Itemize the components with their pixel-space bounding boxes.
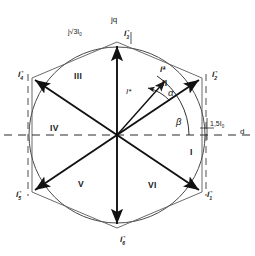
vector-label-I3-sub: 3 bbox=[126, 34, 129, 40]
vector-label-I1-sub: 1 bbox=[209, 195, 212, 201]
vector-label-I3: → I3 bbox=[124, 30, 129, 40]
figure-canvas: jq j√3I0 1,5I0 d → I1 → I2 → I3 → I4 → I… bbox=[0, 0, 255, 256]
vector-label-I4: → I4 bbox=[18, 71, 23, 81]
vector-label-I5-sub: 5 bbox=[18, 195, 21, 201]
sector-label-V: V bbox=[78, 180, 84, 189]
vector-label-I5: → I5 bbox=[16, 191, 21, 201]
vector-label-I2-sub: 2 bbox=[214, 75, 217, 81]
vector-label-I4-sub: 4 bbox=[20, 75, 23, 81]
sector-label-II: II bbox=[162, 79, 168, 88]
vector-I1 bbox=[117, 135, 199, 190]
jq-magnitude-text: j√3I bbox=[68, 28, 79, 35]
jq-magnitude-sub: 0 bbox=[79, 32, 82, 37]
alpha-angle-label: α bbox=[168, 88, 173, 98]
vector-I5 bbox=[35, 135, 117, 190]
sector-label-III: III bbox=[74, 72, 82, 81]
reference-vector-inline-label: I* bbox=[126, 88, 131, 96]
reference-vector-label: → I* bbox=[160, 66, 165, 74]
beta-angle-label: β bbox=[176, 117, 181, 127]
d-magnitude-label: 1,5I0 bbox=[210, 120, 224, 130]
vector-label-I2: → I2 bbox=[212, 71, 217, 81]
jq-axis-label: jq bbox=[111, 16, 117, 24]
jq-magnitude-label: j√3I0 bbox=[68, 28, 82, 38]
d-magnitude-sub: 0 bbox=[222, 124, 225, 129]
sector-label-I: I bbox=[190, 148, 193, 157]
vector-I4 bbox=[35, 80, 117, 135]
vector-label-I6-sub: 6 bbox=[122, 240, 125, 246]
d-axis-label: d bbox=[240, 128, 244, 136]
vector-label-I1: → I1 bbox=[207, 191, 212, 201]
alpha-arc bbox=[148, 88, 170, 101]
vector-label-I6: → I6 bbox=[120, 236, 125, 246]
sector-label-IV: IV bbox=[50, 124, 59, 133]
sector-label-VI: VI bbox=[148, 181, 157, 190]
d-magnitude-text: 1,5I bbox=[210, 120, 222, 127]
